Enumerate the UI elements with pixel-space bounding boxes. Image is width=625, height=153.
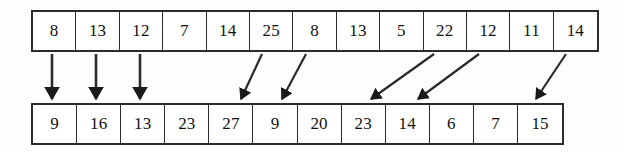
array-cell: 11: [510, 12, 553, 50]
array-cell: 8: [293, 12, 336, 50]
array-cell: 9: [253, 105, 297, 143]
arrow-group: [52, 54, 566, 99]
array-cell: 13: [76, 12, 119, 50]
bottom-array: 91613232792023146715: [31, 103, 564, 145]
array-cell: 7: [474, 105, 518, 143]
array-cell: 5: [380, 12, 423, 50]
arrow-diagonal-3-icon: [371, 54, 434, 99]
array-cell: 20: [298, 105, 342, 143]
arrow-diagonal-2-icon: [282, 54, 306, 99]
array-cell: 8: [33, 12, 76, 50]
array-cell: 27: [209, 105, 253, 143]
arrow-diagonal-1-icon: [241, 54, 262, 99]
array-cell: 7: [163, 12, 206, 50]
array-cell: 16: [77, 105, 121, 143]
array-cell: 22: [424, 12, 467, 50]
array-cell: 23: [165, 105, 209, 143]
array-cell: 12: [120, 12, 163, 50]
array-cell: 14: [554, 12, 597, 50]
top-array: 8131271425813522121114: [31, 10, 599, 52]
array-cell: 6: [430, 105, 474, 143]
array-cell: 13: [337, 12, 380, 50]
array-cell: 14: [386, 105, 430, 143]
array-cell: 12: [467, 12, 510, 50]
array-cell: 14: [207, 12, 250, 50]
array-mapping-diagram: 8131271425813522121114 91613232792023146…: [0, 0, 625, 153]
array-cell: 15: [518, 105, 562, 143]
array-cell: 23: [342, 105, 386, 143]
array-cell: 13: [121, 105, 165, 143]
array-cell: 9: [33, 105, 77, 143]
arrow-diagonal-5-icon: [536, 54, 566, 99]
arrow-diagonal-4-icon: [418, 54, 479, 99]
array-cell: 25: [250, 12, 293, 50]
